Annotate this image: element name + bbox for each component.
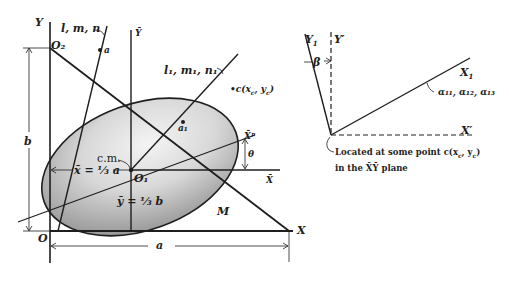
x-bar-p-label: X̄ᵖ: [244, 132, 255, 141]
location-note-line2: in the X̄Ȳ plane: [335, 162, 480, 174]
theta-label: θ: [248, 150, 254, 159]
beta-label: β: [313, 57, 320, 68]
y-bar-equation: ȳ = ⅓ b: [117, 196, 163, 207]
point-a1-label: a₁: [178, 124, 188, 133]
y-axis-label: Y: [35, 17, 43, 28]
point-c-label: •c(xc, yc): [230, 85, 274, 96]
o1-label: O₁: [134, 173, 148, 184]
x-axis-label: X: [297, 225, 306, 236]
line-l1m1n1-label: l₁, m₁, n₁: [164, 65, 218, 76]
center-of-mass-label: c.m.: [97, 153, 121, 164]
mass-label: M: [217, 206, 229, 217]
line-lmn-label: l, m, n: [61, 23, 100, 34]
point-a: [98, 48, 102, 52]
x-bar-label: X̄: [266, 176, 273, 185]
rigid-body-diagram: Y O₂ l, m, n a Ȳ l₁, m₁, n₁ •c(xc, yc) a…: [0, 0, 509, 282]
mass-ellipse: [23, 73, 258, 261]
y1-axis-label: Y1: [305, 34, 318, 47]
location-note: Located at some point c(xc, yc) in the X…: [335, 146, 480, 174]
origin-label: O: [38, 233, 48, 244]
o2-label: O₂: [51, 40, 65, 51]
x-bar-equation: x̄ = ⅓ a: [74, 165, 120, 176]
point-o1: [129, 168, 133, 172]
x1-axis-label: X1: [460, 67, 473, 80]
direction-cosines-label: α₁₁, α₁₂, α₁₃: [438, 88, 495, 97]
dimension-a-label: a: [156, 240, 163, 251]
dimension-b-label: b: [24, 136, 32, 147]
location-note-line1: Located at some point c(xc, yc): [335, 146, 480, 162]
point-a-label: a: [104, 46, 110, 55]
diagram-graphics: [0, 0, 509, 282]
x-prime-label: X′: [461, 125, 472, 136]
y-bar-label: Ȳ: [135, 29, 141, 38]
y1-axis: [305, 34, 331, 135]
y-prime-label: Y′: [334, 34, 345, 45]
